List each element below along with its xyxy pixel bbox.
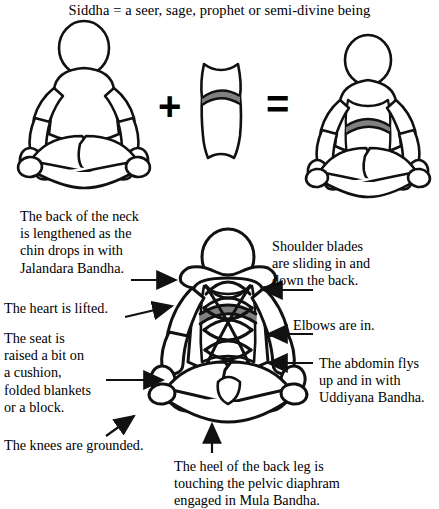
annotation-seat-line-4: folded blankets	[4, 382, 144, 399]
annotation-seat: The seat is raised a bit on a cushion, f…	[4, 330, 144, 416]
annotation-heart: The heart is lifted.	[4, 300, 184, 317]
annotation-neck-line-2: is lengthened as the	[20, 225, 200, 242]
arrow-knees	[106, 416, 134, 436]
annotation-abdomen-line-3: Uddiyana Bandha.	[319, 389, 439, 406]
annotation-seat-line-5: or a block.	[4, 399, 144, 416]
annotation-neck-line-1: The back of the neck	[20, 208, 200, 225]
annotation-neck-line-4: Jalandara Bandha.	[20, 260, 200, 277]
annotation-seat-line-3: a cushion,	[4, 364, 144, 381]
diagram-canvas: Siddha = a seer, sage, prophet or semi-d…	[0, 0, 439, 509]
annotation-shoulder-blades-line-3: down the back.	[272, 272, 437, 289]
annotation-heel-line-2: touching the pelvic diaphram	[174, 475, 439, 492]
seated-figure-with-diaphragm	[298, 30, 438, 200]
annotation-neck: The back of the neck is lengthened as th…	[20, 208, 200, 277]
annotation-heel-line-1: The heel of the back leg is	[174, 458, 439, 475]
annotation-heel-line-3: engaged in Mula Bandha.	[174, 492, 439, 509]
annotation-abdomen: The abdomin flys up and in with Uddiyana…	[319, 355, 439, 407]
annotation-elbows: Elbows are in.	[293, 317, 433, 334]
annotation-abdomen-line-1: The abdomin flys	[319, 355, 439, 372]
annotation-knees-line-1: The knees are grounded.	[4, 437, 204, 454]
annotation-seat-line-2: raised a bit on	[4, 347, 144, 364]
plus-symbol: +	[158, 86, 181, 126]
annotation-knees: The knees are grounded.	[4, 437, 204, 454]
torso-diaphragm-shape	[190, 58, 252, 166]
annotation-seat-line-1: The seat is	[4, 330, 144, 347]
annotation-neck-line-3: chin drops in with	[20, 242, 200, 259]
annotation-elbows-line-1: Elbows are in.	[293, 317, 433, 334]
annotation-shoulder-blades-line-2: are sliding in and	[272, 255, 437, 272]
equals-symbol: =	[266, 84, 289, 124]
seated-figure-plain	[6, 22, 162, 192]
annotation-heart-line-1: The heart is lifted.	[4, 300, 184, 317]
annotation-shoulder-blades: Shoulder blades are sliding in and down …	[272, 238, 437, 290]
page-title: Siddha = a seer, sage, prophet or semi-d…	[0, 2, 439, 19]
annotation-abdomen-line-2: up and in with	[319, 372, 439, 389]
annotation-shoulder-blades-line-1: Shoulder blades	[272, 238, 437, 255]
annotation-heel: The heel of the back leg is touching the…	[174, 458, 439, 509]
